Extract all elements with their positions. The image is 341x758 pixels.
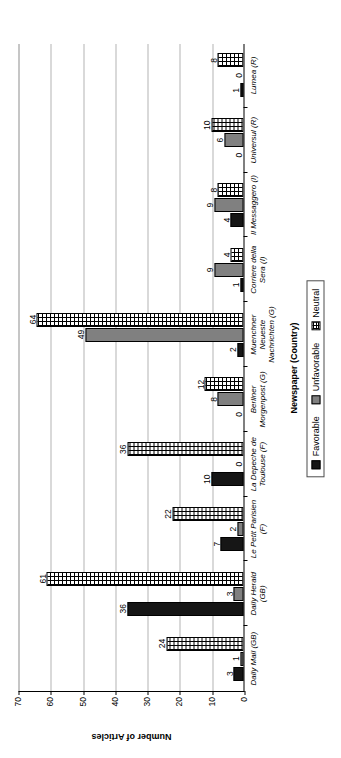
bar-neutral: 8 <box>217 183 243 197</box>
legend-swatch-unfavorable <box>311 395 320 404</box>
bar-neutral: 24 <box>166 637 243 651</box>
bar-chart-figure: Number of Articles 010203040506070 3124D… <box>0 0 341 758</box>
legend-item[interactable]: Neutral <box>310 289 320 331</box>
legend-label: Favorable <box>310 416 320 456</box>
bar-value-label: 1 <box>231 656 240 661</box>
y-tick-label: 0 <box>240 697 249 702</box>
bar-value-label: 3 <box>225 591 234 596</box>
bar-favorable: 1 <box>240 278 243 292</box>
x-category-label-line: Sera (I) <box>257 231 266 309</box>
bar-neutral: 4 <box>230 248 243 262</box>
bar-neutral: 8 <box>217 53 243 67</box>
bar-value-label: 2 <box>228 347 237 352</box>
bar-value-label: 8 <box>209 188 218 193</box>
legend-label: Unfavorable <box>310 343 320 392</box>
bar-value-label: 8 <box>209 58 218 63</box>
y-tick-mark <box>115 691 116 695</box>
bar-value-label: 2 <box>228 527 237 532</box>
bar-unfavorable: 1 <box>240 652 243 666</box>
legend-item[interactable]: Unfavorable <box>310 343 320 405</box>
bar-value-label: 0 <box>234 412 243 417</box>
bar-favorable: 3 <box>233 667 243 681</box>
category-tick <box>243 625 247 626</box>
category-tick <box>243 431 247 432</box>
bar-neutral: 10 <box>211 118 243 132</box>
y-axis-title: Number of Articles <box>18 730 244 744</box>
chart-figure-rotator: Number of Articles 010203040506070 3124D… <box>0 0 341 758</box>
bar-unfavorable: 3 <box>233 587 243 601</box>
chart-legend: FavorableUnfavorableNeutral <box>306 281 324 478</box>
bar-unfavorable: 8 <box>217 392 243 406</box>
bar-favorable: 4 <box>230 213 243 227</box>
bar-unfavorable: 9 <box>214 198 243 212</box>
y-tick-mark <box>83 691 84 695</box>
bar-value-label: 4 <box>222 252 231 257</box>
bar-neutral: 64 <box>36 313 243 327</box>
y-tick-label: 40 <box>111 697 120 706</box>
y-tick-label: 30 <box>143 697 152 706</box>
y-tick-mark <box>179 691 180 695</box>
bar-value-label: 7 <box>212 542 221 547</box>
bar-value-label: 49 <box>76 330 85 339</box>
y-tick-label: 10 <box>207 697 216 706</box>
x-axis-title: Newspaper (Country) <box>288 44 298 692</box>
bar-value-label: 3 <box>225 671 234 676</box>
y-tick-label: 60 <box>46 697 55 706</box>
category-tick <box>243 366 247 367</box>
bar-group: 36361Daily Herald(GB) <box>18 561 243 626</box>
bar-value-label: 0 <box>234 153 243 158</box>
bar-value-label: 0 <box>234 73 243 78</box>
category-tick <box>243 301 247 302</box>
bar-group: 0610Universul (R) <box>18 108 243 173</box>
category-tick <box>243 496 247 497</box>
bar-group: 498Il Messaggero (I) <box>18 173 243 238</box>
category-tick <box>243 236 247 237</box>
bar-value-label: 1 <box>231 282 240 287</box>
category-tick <box>243 172 247 173</box>
category-tick <box>243 107 247 108</box>
bar-group: 3124Daily Mail (GB) <box>18 626 243 691</box>
plot-area: 010203040506070 3124Daily Mail (GB)36361… <box>18 44 244 692</box>
bar-unfavorable: 6 <box>224 133 243 147</box>
bar-group: 10036La Depeche deToulouse (F) <box>18 432 243 497</box>
bar-value-label: 12 <box>196 380 205 389</box>
bar-group: 7222Le Petit Parisien(F) <box>18 497 243 562</box>
category-tick <box>243 560 247 561</box>
bar-group: 108Lumea (R) <box>18 43 243 108</box>
y-tick-mark <box>18 691 19 695</box>
bar-value-label: 10 <box>202 474 211 483</box>
bar-neutral: 22 <box>172 507 243 521</box>
bar-favorable: 2 <box>237 343 243 357</box>
y-axis-title-text: Number of Articles <box>91 732 171 742</box>
bar-value-label: 0 <box>234 462 243 467</box>
bar-value-label: 9 <box>205 267 214 272</box>
y-tick-mark <box>212 691 213 695</box>
y-tick-label: 20 <box>175 697 184 706</box>
bar-group: 0812BerlinerMorgenpost (G) <box>18 367 243 432</box>
bar-neutral: 12 <box>204 377 243 391</box>
bar-group: 194Corriere dellaSera (I) <box>18 237 243 302</box>
bar-favorable: 10 <box>211 472 243 486</box>
bar-value-label: 10 <box>202 120 211 129</box>
bar-value-label: 8 <box>209 397 218 402</box>
x-category-label-line: Lumea (R) <box>248 36 257 114</box>
legend-swatch-favorable <box>311 460 320 469</box>
legend-item[interactable]: Favorable <box>310 416 320 469</box>
bar-neutral: 61 <box>46 572 243 586</box>
y-tick-mark <box>244 691 245 695</box>
bar-value-label: 61 <box>38 574 47 583</box>
x-category-label: Lumea (R) <box>248 36 257 114</box>
bar-value-label: 6 <box>215 138 224 143</box>
bar-favorable: 1 <box>240 83 243 97</box>
bar-value-label: 9 <box>205 203 214 208</box>
bar-value-label: 36 <box>118 444 127 453</box>
bar-group: 24964MuenchnerNeuesteNachrichten (G) <box>18 302 243 367</box>
bar-value-label: 36 <box>118 604 127 613</box>
y-tick-label: 70 <box>14 697 23 706</box>
bar-value-label: 64 <box>28 315 37 324</box>
bar-unfavorable: 49 <box>85 328 243 342</box>
bar-value-label: 24 <box>157 639 166 648</box>
bar-value-label: 22 <box>163 509 172 518</box>
bar-favorable: 7 <box>220 537 243 551</box>
bar-value-label: 4 <box>222 218 231 223</box>
